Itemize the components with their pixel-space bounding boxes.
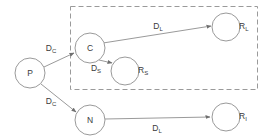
edge-label-p-n: DC [46,96,57,107]
node-label-n: N [87,115,93,125]
edge-line-n-ri [105,117,210,119]
node-label-ri: RI [239,111,247,122]
node-label-rs: RS [138,65,148,76]
node-circle-ri[interactable] [212,103,240,131]
node-ri[interactable]: RI [212,103,247,131]
edge-c-to-rl: DL [103,21,211,43]
node-label-c: C [87,43,93,53]
node-n[interactable]: N [75,105,105,135]
nodes-layer: P C RS RL N RI [15,13,249,135]
edge-n-to-ri: DL [105,117,210,134]
edge-label-c-rl: DL [153,21,163,32]
edge-p-to-c: DC [44,43,74,67]
edge-line-p-c [44,53,74,67]
node-p[interactable]: P [15,58,45,88]
node-rl[interactable]: RL [212,13,249,41]
node-rs[interactable]: RS [111,57,148,85]
node-circle-rl[interactable] [212,13,240,41]
edge-label-p-c: DC [46,43,57,54]
node-label-rl: RL [239,21,249,32]
node-c[interactable]: C [75,33,105,63]
node-label-p: P [27,68,33,78]
edge-label-n-ri: DL [152,123,162,134]
diagram-canvas: DC DC DL DS DL P [0,0,266,139]
edge-line-c-rs [99,60,112,63]
node-link-diagram: DC DC DL DS DL P [0,0,266,139]
node-circle-rs[interactable] [111,57,139,85]
edge-label-c-rs: DS [91,63,101,74]
